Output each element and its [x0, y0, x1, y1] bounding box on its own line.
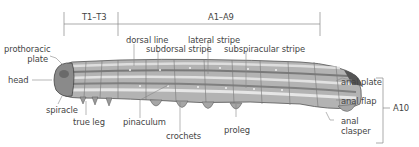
- segment-label-thorax: T1–T3: [82, 12, 107, 22]
- label-prothoracic-plate: prothoracic plate: [4, 44, 48, 64]
- label-true-leg: true leg: [73, 117, 105, 127]
- label-subdorsal-stripe: subdorsal stripe: [146, 44, 212, 54]
- label-anal-clasper: anal clasper: [341, 116, 371, 136]
- segment-label-terminal: A10: [393, 103, 409, 113]
- segment-label-abdomen: A1–A9: [208, 12, 234, 22]
- label-head: head: [8, 75, 29, 85]
- label-anal-flap: anal flap: [341, 96, 376, 106]
- label-crochets: crochets: [166, 131, 201, 141]
- label-pinaculum: pinaculum: [123, 117, 166, 127]
- label-spiracle: spiracle: [46, 105, 78, 115]
- label-anal-plate: anal plate: [341, 77, 382, 87]
- label-proleg: proleg: [224, 125, 250, 135]
- label-subspiracular-stripe: subspiracular stripe: [224, 44, 305, 54]
